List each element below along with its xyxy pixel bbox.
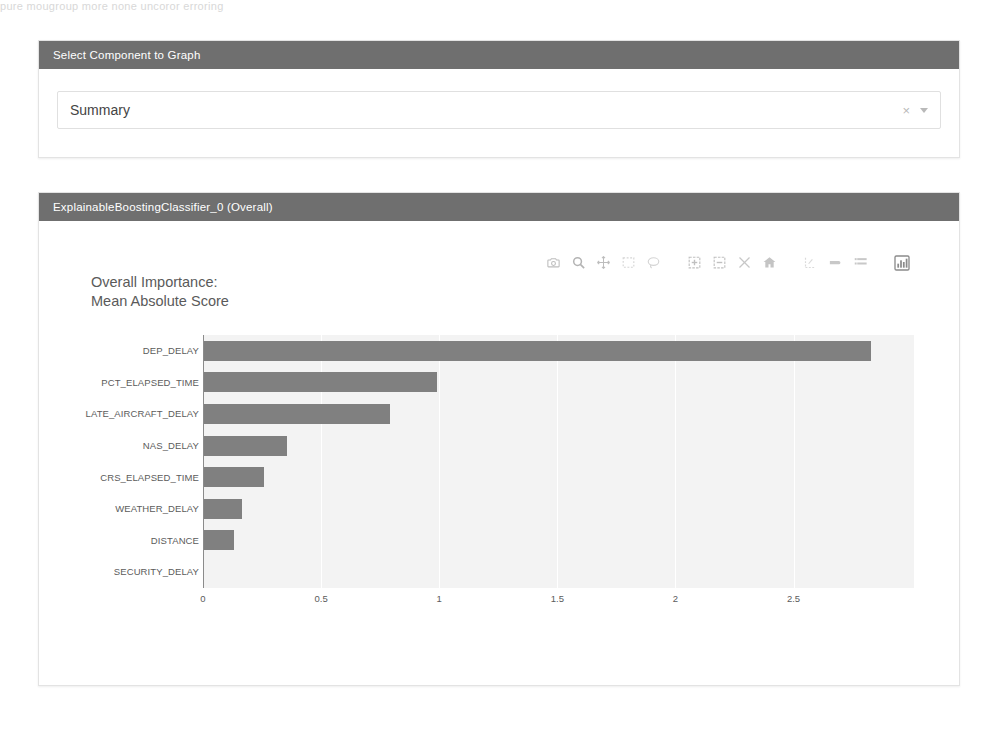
bar-series [203, 335, 914, 588]
lasso-select-icon[interactable] [644, 253, 663, 272]
autoscale-icon[interactable] [735, 253, 754, 272]
bar-row[interactable] [203, 398, 914, 430]
y-axis-tick-label: DISTANCE [39, 525, 202, 557]
pan-icon[interactable] [594, 253, 613, 272]
graph-panel-header: ExplainableBoostingClassifier_0 (Overall… [39, 193, 959, 221]
zoom-icon[interactable] [569, 253, 588, 272]
select-component-panel: Select Component to Graph Summary × [38, 40, 960, 158]
graph-panel-title: ExplainableBoostingClassifier_0 (Overall… [53, 201, 273, 213]
y-axis-line [203, 335, 204, 588]
toggle-spike-lines-icon[interactable] [801, 253, 820, 272]
component-select[interactable]: Summary × [57, 91, 941, 129]
x-axis-tick-label: 0.5 [314, 593, 327, 604]
bar-row[interactable] [203, 335, 914, 367]
select-component-panel-body: Summary × [39, 69, 959, 129]
y-axis-tick-label: LATE_AIRCRAFT_DELAY [39, 398, 202, 430]
y-axis-tick-label: PCT_ELAPSED_TIME [39, 367, 202, 399]
bar[interactable] [203, 436, 287, 456]
page-top-strip: pure mougroup more none uncoror erroring [0, 0, 995, 22]
bar[interactable] [203, 341, 871, 361]
select-component-panel-header: Select Component to Graph [39, 41, 959, 69]
bar[interactable] [203, 499, 242, 519]
y-axis-tick-label: CRS_ELAPSED_TIME [39, 461, 202, 493]
y-axis-tick-label: WEATHER_DELAY [39, 493, 202, 525]
bar-row[interactable] [203, 367, 914, 399]
x-axis-tick-label: 2.5 [787, 593, 800, 604]
bar[interactable] [203, 530, 234, 550]
page-top-text: pure mougroup more none uncoror erroring [0, 0, 995, 16]
y-axis-labels: DEP_DELAY PCT_ELAPSED_TIME LATE_AIRCRAFT… [39, 335, 202, 588]
plot-area [203, 335, 914, 588]
hover-closest-icon[interactable] [826, 253, 845, 272]
x-axis-tick-label: 0 [200, 593, 205, 604]
bar[interactable] [203, 467, 264, 487]
reset-axes-home-icon[interactable] [760, 253, 779, 272]
component-select-actions: × [902, 104, 928, 117]
hover-compare-icon[interactable] [851, 253, 870, 272]
chevron-down-icon[interactable] [920, 108, 928, 113]
y-axis-tick-label: SECURITY_DELAY [39, 556, 202, 588]
graph-panel-body: Overall Importance: Mean Absolute Score … [39, 221, 959, 683]
plotly-modebar [544, 253, 911, 272]
bar-row[interactable] [203, 461, 914, 493]
overall-importance-chart[interactable]: Overall Importance: Mean Absolute Score … [39, 273, 959, 673]
bar[interactable] [203, 404, 390, 424]
zoom-in-icon[interactable] [685, 253, 704, 272]
graph-panel: ExplainableBoostingClassifier_0 (Overall… [38, 192, 960, 686]
bar-row[interactable] [203, 556, 914, 588]
component-select-value: Summary [70, 102, 902, 118]
plotly-logo-icon[interactable] [892, 253, 911, 272]
close-icon[interactable]: × [902, 104, 910, 117]
y-axis-tick-label: NAS_DELAY [39, 430, 202, 462]
bar-row[interactable] [203, 493, 914, 525]
box-select-icon[interactable] [619, 253, 638, 272]
x-axis-tick-label: 1 [437, 593, 442, 604]
x-axis-tick-label: 2 [673, 593, 678, 604]
y-axis-tick-label: DEP_DELAY [39, 335, 202, 367]
select-component-panel-title: Select Component to Graph [53, 49, 201, 61]
bar-row[interactable] [203, 430, 914, 462]
x-axis-tick-label: 1.5 [551, 593, 564, 604]
bar-row[interactable] [203, 525, 914, 557]
bar[interactable] [203, 372, 437, 392]
download-plot-png-icon[interactable] [544, 253, 563, 272]
x-axis-labels: 00.511.522.5 [203, 593, 914, 609]
zoom-out-icon[interactable] [710, 253, 729, 272]
chart-title: Overall Importance: Mean Absolute Score [91, 273, 229, 311]
